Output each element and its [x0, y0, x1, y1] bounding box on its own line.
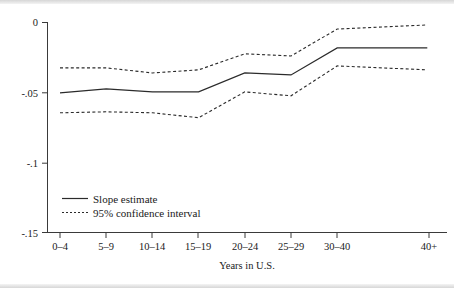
x-tick-label-5: 25–29: [278, 241, 304, 252]
y-tick-label-3: -.15: [21, 228, 38, 239]
x-tick-label-0: 0–4: [52, 241, 69, 252]
y-tick-label-0: 0: [33, 17, 38, 28]
x-tick-label-6: 30–40: [324, 241, 350, 252]
y-tick-label-2: -.1: [27, 158, 38, 169]
x-tick-label-7: 40+: [421, 241, 438, 252]
chart-legend: Slope estimate 95% confidence interval: [62, 193, 201, 219]
y-tick-label-1: -.05: [21, 88, 38, 99]
x-tick-label-1: 5–9: [98, 241, 114, 252]
legend-label-confidence-interval: 95% confidence interval: [93, 207, 201, 219]
x-tick-label-2: 10–14: [139, 241, 166, 252]
line-chart-plot: 0 -.05 -.1 -.15 0–4 5–9 10–14 15–19 20–2…: [0, 0, 454, 288]
x-axis-ticks: [60, 233, 429, 239]
legend-label-slope-estimate: Slope estimate: [93, 193, 158, 205]
x-tick-label-3: 15–19: [185, 241, 211, 252]
x-tick-label-4: 20–24: [232, 241, 259, 252]
series-ci-upper-line: [60, 25, 427, 73]
x-axis-title: Years in U.S.: [219, 260, 275, 271]
y-axis-ticks: [42, 23, 48, 233]
chart-figure: 0 -.05 -.1 -.15 0–4 5–9 10–14 15–19 20–2…: [0, 0, 454, 288]
